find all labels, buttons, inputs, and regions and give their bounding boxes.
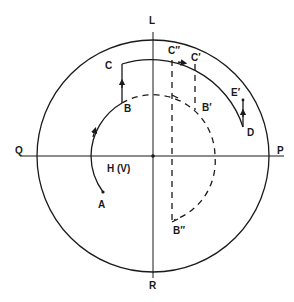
label-C: C [105,61,112,71]
label-B-double-prime: B″ [173,226,185,236]
label-C-prime: C′ [191,53,201,63]
arc-C-to-D [122,60,243,127]
label-R: R [149,281,156,291]
center-point [151,154,155,158]
label-A: A [98,200,105,210]
arc-A-to-B [91,103,122,192]
diagram-canvas [0,0,294,302]
arrow-on-arc-CD [178,62,184,63]
dashed-arc-B-to-B-double-prime [122,95,215,220]
point-A [101,190,104,193]
label-L: L [149,16,155,26]
label-D: D [247,128,254,138]
dashed-B-tick [172,95,178,98]
label-H-V: H (V) [107,164,130,174]
label-P: P [277,146,284,156]
label-Q: Q [15,146,23,156]
label-B: B [124,104,131,114]
point-E-prime [242,99,245,102]
label-C-double-prime: C″ [168,46,180,56]
label-B-prime: B′ [202,103,212,113]
label-E-prime: E′ [231,88,240,98]
